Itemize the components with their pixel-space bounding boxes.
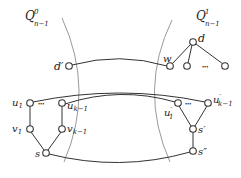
node-vk1 <box>59 126 66 133</box>
left-region-sub: n−1 <box>34 20 49 28</box>
node-s-dprime <box>190 148 197 155</box>
diagram-svg: Q 0 n−1 Q 1 n−1 <box>0 0 241 178</box>
ellipsis-u-right: ••• <box>185 101 191 107</box>
right-region-boundary <box>154 20 172 162</box>
label-uk1: uk−1 <box>67 100 88 113</box>
edge-s-sdprime <box>49 152 190 163</box>
left-region-boundary <box>62 18 79 162</box>
label-d: d <box>198 32 205 45</box>
node-u1 <box>27 100 34 107</box>
edge-u1prime-sprime <box>179 106 191 126</box>
node-s-prime <box>190 126 197 133</box>
label-uk1-prime: u′k−1 <box>213 93 233 108</box>
label-w: w <box>163 53 172 64</box>
node-s <box>43 150 50 157</box>
node-d-child2 <box>184 63 191 70</box>
node-uk1 <box>59 100 66 107</box>
left-region-sup: 0 <box>34 8 39 16</box>
label-u1-prime: u′1 <box>164 106 174 121</box>
label-vk1: vk−1 <box>67 123 87 136</box>
node-d <box>190 39 197 46</box>
edge-vk1-s <box>48 132 61 150</box>
node-uk1-prime <box>205 100 212 107</box>
edge-d-child3 <box>196 44 223 64</box>
node-d-child3 <box>222 63 229 70</box>
label-s-prime: s′ <box>198 124 206 135</box>
edge-uk1prime-sprime <box>195 106 207 126</box>
label-u1: u1 <box>12 97 23 110</box>
label-s-dprime: s″ <box>198 146 207 157</box>
label-s: s <box>35 148 40 159</box>
ellipsis-d-children: ••• <box>202 64 208 70</box>
node-d-prime <box>66 63 73 70</box>
ellipsis-u-left: ••• <box>38 101 44 107</box>
right-region-sub: n−1 <box>205 20 220 28</box>
edge-uk1-u1prime <box>65 94 175 104</box>
node-u1-prime <box>175 100 182 107</box>
label-d-prime: d′ <box>54 60 64 73</box>
node-v1 <box>27 126 34 133</box>
edge-dprime-w <box>72 59 167 66</box>
label-v1: v1 <box>12 123 22 136</box>
right-region-sup: 1 <box>205 8 209 16</box>
edge-d-child2 <box>188 45 192 63</box>
hypercube-diagram: Q 0 n−1 Q 1 n−1 <box>0 0 241 178</box>
